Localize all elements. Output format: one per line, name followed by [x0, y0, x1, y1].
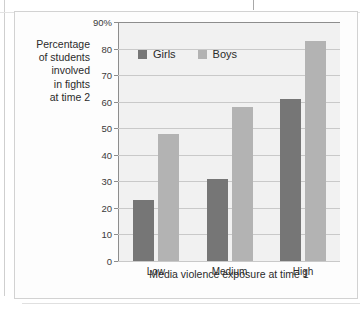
y-axis-tick-label: 40 — [101, 149, 112, 160]
bar-group — [280, 22, 326, 261]
y-axis-tick-mark — [114, 128, 118, 129]
bar-girls-medium — [207, 179, 228, 261]
chart-page: Percentage of students involved in fight… — [0, 0, 360, 311]
bar-boys-high — [305, 41, 326, 261]
x-axis-title: Media violence exposure at time 1 — [118, 268, 340, 280]
y-axis-caption: Percentage of students involved in fight… — [16, 38, 90, 104]
bar-girls-high — [280, 99, 301, 261]
y-axis-tick-mark — [114, 261, 118, 262]
y-axis-caption-line: involved — [16, 64, 90, 77]
legend-label-boys: Boys — [213, 48, 237, 60]
y-axis-tick-label: 50 — [101, 123, 112, 134]
y-axis-tick-mark — [114, 49, 118, 50]
legend-swatch-girls-icon — [138, 50, 147, 59]
bar-boys-medium — [232, 107, 253, 261]
y-axis-tick-label: 10 — [101, 229, 112, 240]
page-left-rule — [4, 0, 5, 296]
y-axis-caption-line: Percentage — [16, 38, 90, 51]
y-axis-tick-mark — [114, 208, 118, 209]
legend-swatch-boys-icon — [198, 50, 207, 59]
legend-item-girls: Girls — [138, 48, 176, 60]
y-axis-caption-line: of students — [16, 51, 90, 64]
chart-legend: Girls Boys — [138, 48, 237, 60]
y-axis-tick-mark — [114, 75, 118, 76]
y-axis-tick-label: 80 — [101, 43, 112, 54]
y-axis-tick-label: 30 — [101, 176, 112, 187]
legend-label-girls: Girls — [153, 48, 176, 60]
bar-boys-low — [158, 134, 179, 261]
y-axis-tick-label: 70 — [101, 70, 112, 81]
y-axis-tick-mark — [114, 22, 118, 23]
y-axis-caption-line: at time 2 — [16, 91, 90, 104]
bar-girls-low — [133, 200, 154, 261]
y-axis-tick-label: 0 — [107, 256, 112, 267]
page-top-tick — [253, 0, 254, 10]
y-axis-caption-line: in fights — [16, 78, 90, 91]
y-axis-tick-mark — [114, 234, 118, 235]
gridline — [118, 261, 340, 262]
y-axis-tick-mark — [114, 102, 118, 103]
page-bottom-rule — [22, 303, 360, 304]
y-axis-tick-mark — [114, 155, 118, 156]
y-axis-tick-mark — [114, 181, 118, 182]
plot-wrapper: 0102030405060708090% LowMediumHigh Girls… — [118, 22, 340, 262]
y-axis-tick-label: 20 — [101, 202, 112, 213]
y-axis-tick-label: 60 — [101, 96, 112, 107]
legend-item-boys: Boys — [198, 48, 237, 60]
y-axis-tick-label: 90% — [93, 17, 112, 28]
